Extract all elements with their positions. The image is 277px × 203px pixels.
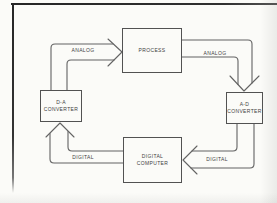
analog-arrow-process-to-ad: [182, 40, 259, 91]
process-node: PROCESS: [122, 28, 182, 73]
ad-converter-node-label: A-D CONVERTER: [227, 101, 261, 116]
digital-arrow-ad-to-computer: [183, 124, 254, 174]
digital-label-computer-to-da: DIGITAL: [70, 154, 96, 160]
digital-computer-node: DIGITAL COMPUTER: [123, 137, 182, 183]
da-converter-node-label: D-A CONVERTER: [44, 99, 78, 114]
da-converter-node: D-A CONVERTER: [40, 90, 82, 122]
digital-computer-node-label: DIGITAL COMPUTER: [137, 153, 168, 168]
digital-label-ad-to-computer: DIGITAL: [204, 156, 230, 162]
scanned-diagram-page: PROCESS A-D CONVERTER DIGITAL COMPUTER D…: [0, 0, 277, 203]
analog-label-process-to-ad: ANALOG: [202, 50, 228, 56]
ad-converter-node: A-D CONVERTER: [226, 92, 263, 124]
process-node-label: PROCESS: [139, 47, 166, 55]
analog-label-da-to-process: ANALOG: [70, 47, 96, 53]
